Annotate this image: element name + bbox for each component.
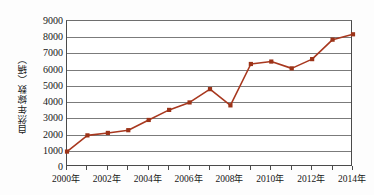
y-axis-tick-labels: 0100020003000400050006000700080009000 — [30, 0, 66, 195]
x-tick-mark — [291, 166, 292, 170]
data-point-marker — [126, 128, 130, 132]
x-axis-tick-labels: 2000年2002年2004年2006年2008年2010年2012年2014年 — [66, 166, 352, 195]
line-chart: 自然年嫁数（辆） 0100020003000400050006000700080… — [0, 0, 374, 195]
y-tick-label: 8000 — [43, 31, 63, 42]
x-tick-mark — [332, 166, 333, 170]
y-tick-label: 5000 — [43, 79, 63, 90]
x-tick-mark — [209, 166, 210, 170]
x-tick-mark — [352, 166, 353, 170]
y-tick-label: 2000 — [43, 128, 63, 139]
data-point-marker — [167, 108, 171, 112]
x-tick-mark — [189, 166, 190, 170]
x-tick-label: 2004年 — [134, 172, 162, 185]
data-point-marker — [228, 103, 232, 107]
x-tick-mark — [127, 166, 128, 170]
data-point-marker — [147, 118, 151, 122]
x-tick-mark — [229, 166, 230, 170]
data-point-marker — [290, 66, 294, 70]
plot-area — [66, 20, 352, 166]
y-tick-label: 9000 — [43, 15, 63, 26]
x-tick-label: 2010年 — [256, 172, 284, 185]
y-tick-label: 0 — [58, 161, 63, 172]
x-tick-mark — [250, 166, 251, 170]
data-point-marker — [187, 100, 191, 104]
x-tick-mark — [311, 166, 312, 170]
y-tick-label: 6000 — [43, 63, 63, 74]
x-tick-label: 2006年 — [175, 172, 203, 185]
x-tick-label: 2008年 — [215, 172, 243, 185]
x-tick-mark — [270, 166, 271, 170]
x-tick-mark — [107, 166, 108, 170]
data-point-marker — [208, 87, 212, 91]
x-tick-mark — [86, 166, 87, 170]
data-point-marker — [65, 149, 69, 153]
data-point-marker — [351, 32, 355, 36]
data-point-marker — [85, 133, 89, 137]
y-tick-label: 3000 — [43, 112, 63, 123]
data-point-marker — [106, 131, 110, 135]
data-point-marker — [330, 38, 334, 42]
x-tick-label: 2000年 — [52, 172, 80, 185]
y-tick-label: 4000 — [43, 96, 63, 107]
y-tick-label: 1000 — [43, 144, 63, 155]
x-tick-mark — [148, 166, 149, 170]
x-tick-mark — [168, 166, 169, 170]
data-point-marker — [269, 59, 273, 63]
x-tick-label: 2012年 — [297, 172, 325, 185]
data-point-marker — [249, 62, 253, 66]
x-tick-mark — [66, 166, 67, 170]
data-point-marker — [310, 57, 314, 61]
y-tick-label: 7000 — [43, 47, 63, 58]
x-tick-label: 2002年 — [93, 172, 121, 185]
x-tick-label: 2014年 — [338, 172, 366, 185]
data-series-line — [67, 21, 353, 167]
